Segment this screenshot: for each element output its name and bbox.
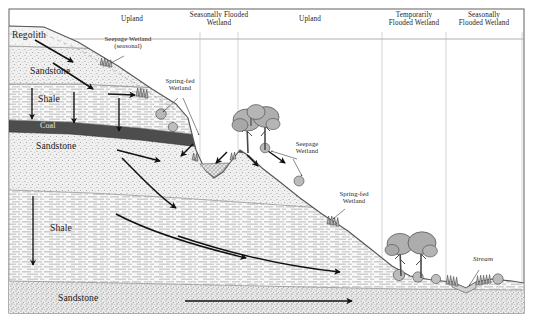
zone-label-upland-2: Upland — [274, 15, 346, 23]
zone-label-seasonally-flooded-1: Seasonally Flooded Wetland — [183, 11, 255, 27]
stratum-label-sandstone-bottom: Sandstone — [58, 293, 98, 304]
geologic-cross-section-figure: Upland Seasonally Flooded Wetland Upland… — [0, 0, 533, 321]
streamside-shrub — [493, 274, 503, 284]
callout-label-seepage-wetland-right: Seepage Wetland — [287, 140, 327, 155]
zone-label-upland-1: Upland — [92, 15, 172, 23]
stratum-label-sandstone-mid: Sandstone — [36, 141, 76, 152]
callout-label-spring-fed-wetland-left: Spring-fed Wetland — [156, 77, 204, 92]
callout-label-spring-fed-wetland-right: Spring-fed Wetland — [330, 190, 378, 205]
cross-section-canvas — [0, 0, 533, 321]
stratum-label-regolith: Regolith — [12, 30, 46, 41]
stratum-label-sandstone-top: Sandstone — [30, 66, 70, 77]
zone-label-temporarily-flooded: Temporarily Flooded Wetland — [378, 11, 450, 27]
stratum-label-shale-lower: Shale — [50, 223, 72, 234]
stratum-label-coal: Coal — [40, 122, 56, 131]
zone-label-seasonally-flooded-2: Seasonally Flooded Wetland — [448, 11, 520, 27]
callout-label-seepage-wetland-seasonal: Seepage Wetland (seasonal) — [90, 35, 166, 50]
stratum-label-shale-upper: Shale — [38, 94, 60, 105]
callout-label-stream: Stream — [466, 256, 500, 264]
